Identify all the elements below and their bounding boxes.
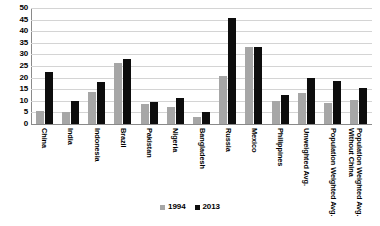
legend-entry: 2013 xyxy=(195,203,220,211)
x-axis-tick-label: Nigeria xyxy=(171,128,179,152)
y-axis-tick-label: 15 xyxy=(0,85,28,93)
y-axis-tick-label: 40 xyxy=(0,27,28,35)
x-axis-tick-label: Indonesia xyxy=(92,128,100,162)
bar-group xyxy=(215,8,241,124)
legend-swatch-icon xyxy=(195,205,200,210)
bar-group xyxy=(293,8,319,124)
bar-chart: 05101520253035404550 ChinaIndiaIndonesia… xyxy=(0,0,380,226)
bar-group xyxy=(346,8,372,124)
y-axis-tick-label: 10 xyxy=(0,97,28,105)
bar-2013 xyxy=(71,101,79,124)
x-axis-tick-label: Philippines xyxy=(276,128,284,166)
y-axis-tick-label: 45 xyxy=(0,16,28,24)
bar-2013 xyxy=(202,112,210,124)
x-axis-tick-label: Unweighted Avg. xyxy=(302,128,310,186)
y-axis-tick-label: 35 xyxy=(0,39,28,47)
bar-group xyxy=(31,8,57,124)
x-axis-tick-label: India xyxy=(66,128,74,145)
bar-group xyxy=(110,8,136,124)
bar-group xyxy=(57,8,83,124)
chart-legend: 19942013 xyxy=(0,203,380,211)
bar-2013 xyxy=(307,78,315,124)
legend-swatch-icon xyxy=(160,205,165,210)
bar-1994 xyxy=(219,76,227,124)
x-axis-tick-label: Mexico xyxy=(249,128,257,152)
bar-2013 xyxy=(359,88,367,124)
bar-1994 xyxy=(167,107,175,124)
bar-group xyxy=(267,8,293,124)
bar-2013 xyxy=(97,82,105,124)
x-axis-tick-label: Bangladesh xyxy=(197,128,205,169)
bar-group xyxy=(136,8,162,124)
bar-2013 xyxy=(45,72,53,124)
bar-2013 xyxy=(281,95,289,124)
x-axis-tick-label: China xyxy=(39,128,47,148)
bar-2013 xyxy=(228,18,236,124)
bar-2013 xyxy=(333,81,341,124)
y-axis-tick-label: 0 xyxy=(0,120,28,128)
bar-2013 xyxy=(254,47,262,124)
y-axis-tick-label: 50 xyxy=(0,4,28,12)
bar-group xyxy=(241,8,267,124)
bar-1994 xyxy=(272,101,280,124)
bar-1994 xyxy=(350,100,358,124)
bar-1994 xyxy=(193,117,201,124)
bar-group xyxy=(188,8,214,124)
legend-label: 2013 xyxy=(203,203,220,211)
plot-area xyxy=(31,8,372,124)
bar-1994 xyxy=(298,93,306,124)
y-axis-tick-label: 5 xyxy=(0,108,28,116)
bar-group xyxy=(320,8,346,124)
y-axis-labels: 05101520253035404550 xyxy=(0,0,28,132)
bar-2013 xyxy=(150,102,158,124)
bar-groups xyxy=(31,8,372,124)
legend-label: 1994 xyxy=(168,203,185,211)
bar-group xyxy=(83,8,109,124)
y-axis-tick-label: 30 xyxy=(0,50,28,58)
x-axis-tick-label: Brazil xyxy=(118,128,126,148)
y-axis-tick-label: 25 xyxy=(0,62,28,70)
bar-group xyxy=(162,8,188,124)
bar-1994 xyxy=(141,104,149,124)
bar-1994 xyxy=(114,63,122,124)
bar-1994 xyxy=(88,92,96,124)
bar-1994 xyxy=(62,112,70,124)
x-axis-tick-label: Pakistan xyxy=(144,128,152,158)
bar-1994 xyxy=(324,103,332,124)
bar-1994 xyxy=(245,47,253,124)
bar-2013 xyxy=(123,59,131,124)
x-axis-tick-label: Russia xyxy=(223,128,231,152)
bar-2013 xyxy=(176,98,184,124)
bar-1994 xyxy=(36,111,44,124)
y-axis-tick-label: 20 xyxy=(0,74,28,82)
legend-entry: 1994 xyxy=(160,203,185,211)
axis-baseline xyxy=(31,124,372,125)
